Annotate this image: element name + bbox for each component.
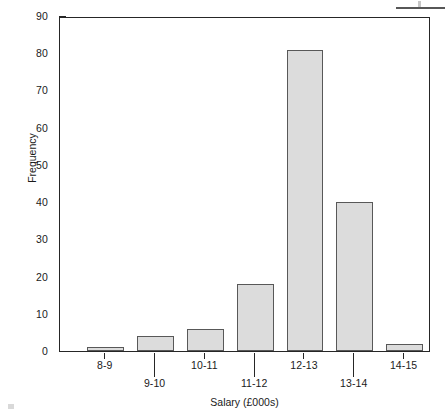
y-axis-tick-label-text: 50 [14,160,48,171]
y-axis-tick-label-text: 80 [14,48,48,59]
y-axis-tick-label: 30 [14,234,48,246]
histogram-bar [386,344,423,351]
x-axis-title: Salary (£000s) [59,396,430,408]
histogram-chart: Frequency 0102030405060708090 8-99-1010-… [0,0,445,420]
y-axis-tick-label: 40 [14,197,48,209]
x-axis-tick [254,353,255,377]
y-axis-tick-label-text: 60 [14,123,48,134]
histogram-bar [336,202,373,351]
x-axis-tick-label: 11-12 [224,378,284,389]
y-axis-tick-label: 70 [14,85,48,97]
y-axis-tick-label-text: 30 [14,234,48,245]
y-axis-tick-label: 50 [14,160,48,172]
x-axis-tick-label: 12-13 [274,360,334,371]
histogram-bar [187,329,224,351]
histogram-bar [87,347,124,351]
plot-area [59,17,430,352]
scan-artifact-speck [8,404,14,409]
y-axis-tick-label: 10 [14,309,48,321]
y-axis-tick-label-text: 0 [14,346,48,357]
x-axis-tick-label: 9-10 [125,378,185,389]
y-axis-tick-label: 90 [14,11,48,23]
histogram-bar [237,284,274,351]
x-axis-tick-label: 14-15 [374,360,434,371]
scan-artifact-mark [418,1,421,7]
x-axis-tick [353,353,354,377]
x-axis-tick-label: 10-11 [174,360,234,371]
y-axis-tick-label: 80 [14,48,48,60]
y-axis-tick-label-text: 20 [14,272,48,283]
y-axis-tick-label: 0 [14,346,48,358]
y-axis-tick-label-text: 40 [14,197,48,208]
x-axis-tick-label: 13-14 [324,378,384,389]
bars-layer [60,18,429,351]
x-axis-tick-label: 8-9 [75,360,135,371]
histogram-bar [287,50,324,352]
x-axis-tick [154,353,155,377]
y-axis-tick-label-text: 10 [14,309,48,320]
histogram-bar [137,336,174,351]
y-axis-tick-label: 20 [14,272,48,284]
scan-artifact [396,7,445,9]
y-axis-tick-label-text: 70 [14,85,48,96]
y-axis-tick-label: 60 [14,123,48,135]
y-axis-tick-label-text: 90 [14,11,48,22]
